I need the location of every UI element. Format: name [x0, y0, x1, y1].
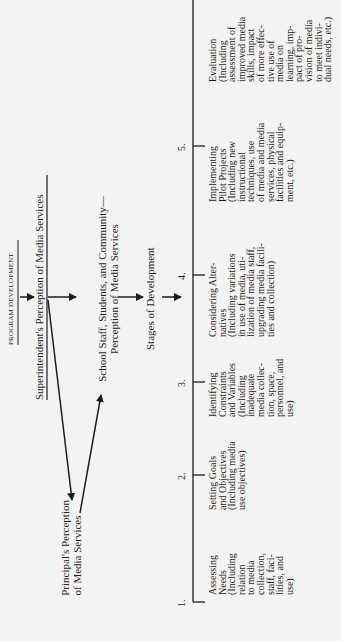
- evaluation-text: Evaluation (Including assessment of impr…: [208, 17, 333, 82]
- stages-heading: Stages of Development: [144, 247, 156, 350]
- stage-number: 1.: [176, 600, 187, 608]
- stage-number: 3.: [176, 380, 187, 388]
- stage-1-text: Assessing Needs (Including relation to m…: [208, 553, 294, 595]
- stage-number: 4.: [176, 273, 187, 281]
- stage-number: 2.: [176, 473, 187, 481]
- arrow-icon: [48, 300, 72, 500]
- diagram-title: PROGRAM DEVELOPMENT: [7, 253, 15, 345]
- superintendent-perception: Superintendent's Perception of Media Ser…: [33, 195, 45, 400]
- diagram-lines: [0, 0, 341, 641]
- rotated-page: PROGRAM DEVELOPMENT Superintendent's Per…: [0, 0, 341, 641]
- stage-number: 5.: [176, 144, 187, 152]
- stage-2-text: Setting Goals and Objectives (Including …: [208, 441, 246, 510]
- stage-3-text: Identifying Constraints and Variables (I…: [208, 359, 294, 417]
- arrow-icon: [80, 395, 101, 513]
- stage-5-text: Implementing Pilot Projects (Including n…: [208, 123, 294, 202]
- stage-4-text: Considering Alter- natives (Including va…: [208, 243, 275, 337]
- community-perception: School Staff, Students, and Community— P…: [96, 183, 120, 395]
- principal-perception: Principal's Perception of Media Services: [59, 500, 83, 603]
